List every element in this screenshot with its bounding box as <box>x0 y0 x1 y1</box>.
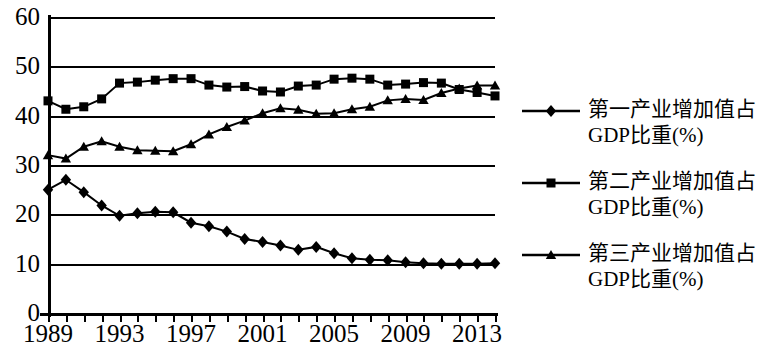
diamond-marker-icon <box>347 252 357 264</box>
x-axis-tick-labels: 1989199319972001200520092013 <box>0 320 540 348</box>
diamond-marker-icon <box>43 184 53 196</box>
diamond-marker-icon <box>383 254 393 266</box>
square-marker-icon <box>151 76 160 85</box>
series-line <box>48 86 495 159</box>
x-axis-tick-label: 1997 <box>166 320 216 348</box>
x-axis-tick-label: 2005 <box>309 320 359 348</box>
square-marker-icon <box>222 83 231 92</box>
legend-entry-1[interactable]: 第一产业增加值占 GDP比重(%) <box>520 96 778 148</box>
square-marker-icon <box>383 81 392 90</box>
diamond-marker-icon <box>150 206 160 218</box>
diamond-marker-icon <box>204 220 214 232</box>
series-layer <box>48 17 495 313</box>
square-marker-icon <box>347 74 356 83</box>
square-marker-icon <box>187 74 196 83</box>
diamond-marker-icon <box>472 258 482 270</box>
square-marker-icon <box>133 78 142 87</box>
diamond-marker-icon <box>400 256 410 268</box>
diamond-marker-icon <box>329 247 339 259</box>
diamond-marker-icon <box>546 105 556 117</box>
diamond-marker-icon <box>222 226 232 238</box>
diamond-marker-icon <box>436 258 446 270</box>
diamond-marker-icon <box>168 206 178 218</box>
diamond-marker-icon <box>275 239 285 251</box>
series-3 <box>43 81 500 163</box>
triangle-marker-icon <box>520 242 582 268</box>
square-marker-icon <box>520 170 582 196</box>
square-marker-icon <box>97 94 106 103</box>
diamond-marker-icon <box>293 244 303 256</box>
x-axis-tick-label: 2001 <box>238 320 288 348</box>
square-marker-icon <box>419 78 428 87</box>
legend-label: 第二产业增加值占 GDP比重(%) <box>588 168 756 220</box>
diamond-marker-icon <box>257 236 267 248</box>
series-2 <box>44 74 500 114</box>
line-chart: 0102030405060 19891993199720012005200920… <box>0 0 781 348</box>
y-axis-tick-label: 30 <box>0 152 40 177</box>
square-marker-icon <box>61 105 70 114</box>
y-axis-tick-label: 50 <box>0 53 40 78</box>
legend-label: 第三产业增加值占 GDP比重(%) <box>588 240 756 292</box>
square-marker-icon <box>169 74 178 83</box>
square-marker-icon <box>276 87 285 96</box>
square-marker-icon <box>401 80 410 89</box>
x-axis-tick-label: 2013 <box>452 320 502 348</box>
diamond-marker-icon <box>418 257 428 269</box>
series-line <box>48 180 495 264</box>
diamond-marker-icon <box>132 207 142 219</box>
square-marker-icon <box>312 81 321 90</box>
series-1 <box>43 174 500 270</box>
y-axis-tick-label: 40 <box>0 103 40 128</box>
diamond-marker-icon <box>114 210 124 222</box>
x-axis-tick-label: 2009 <box>381 320 431 348</box>
square-marker-icon <box>44 96 53 105</box>
square-marker-icon <box>547 179 556 188</box>
y-axis-tick-label: 10 <box>0 251 40 276</box>
square-marker-icon <box>491 91 500 100</box>
diamond-marker-icon <box>490 257 500 269</box>
x-axis-tick-label: 1989 <box>23 320 73 348</box>
y-axis-tick-label: 20 <box>0 201 40 226</box>
diamond-marker-icon <box>454 258 464 270</box>
square-marker-icon <box>294 82 303 91</box>
legend: 第一产业增加值占 GDP比重(%)第二产业增加值占 GDP比重(%)第三产业增加… <box>520 96 778 312</box>
square-marker-icon <box>365 75 374 84</box>
legend-entry-3[interactable]: 第三产业增加值占 GDP比重(%) <box>520 240 778 292</box>
square-marker-icon <box>204 81 213 90</box>
diamond-marker-icon <box>311 241 321 253</box>
y-axis-tick-label: 60 <box>0 4 40 29</box>
plot-area <box>48 17 495 313</box>
y-axis-tick-labels: 0102030405060 <box>0 0 40 348</box>
diamond-marker-icon <box>239 233 249 245</box>
square-marker-icon <box>79 102 88 111</box>
square-marker-icon <box>258 87 267 96</box>
triangle-marker-icon <box>96 136 106 145</box>
square-marker-icon <box>437 79 446 88</box>
diamond-marker-icon <box>79 186 89 198</box>
legend-label: 第一产业增加值占 GDP比重(%) <box>588 96 756 148</box>
diamond-marker-icon <box>61 174 71 186</box>
x-axis-tick-label: 1993 <box>95 320 145 348</box>
square-marker-icon <box>115 79 124 88</box>
square-marker-icon <box>240 82 249 91</box>
diamond-marker-icon <box>96 199 106 211</box>
triangle-marker-icon <box>186 139 196 148</box>
diamond-marker-icon <box>520 98 582 124</box>
legend-entry-2[interactable]: 第二产业增加值占 GDP比重(%) <box>520 168 778 220</box>
square-marker-icon <box>330 75 339 84</box>
diamond-marker-icon <box>365 254 375 266</box>
diamond-marker-icon <box>186 217 196 229</box>
triangle-marker-icon <box>43 150 53 159</box>
